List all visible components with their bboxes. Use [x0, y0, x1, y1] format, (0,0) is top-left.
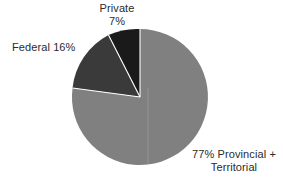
pie-chart: Private 7% Federal 16% 77% Provincial + …: [0, 0, 283, 186]
pie-label-private: Private 7%: [84, 2, 150, 28]
pie-label-provincial-territorial: 77% Provincial + Territorial: [188, 148, 280, 174]
pie-label-federal-line1: Federal 16%: [12, 41, 75, 54]
pie-label-private-line2: 7%: [84, 15, 150, 28]
pie-label-federal: Federal 16%: [12, 41, 75, 54]
pie-label-provincial-line2: Territorial: [188, 161, 280, 174]
pie-label-private-line1: Private: [84, 2, 150, 15]
pie-label-provincial-line1: 77% Provincial +: [188, 148, 280, 161]
